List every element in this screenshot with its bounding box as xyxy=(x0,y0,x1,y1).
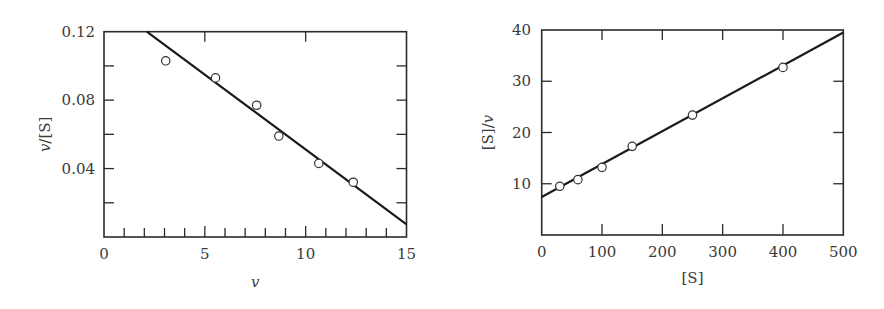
y-tick-label: 10 xyxy=(512,175,531,193)
y-axis-label: v/[S] xyxy=(36,117,54,153)
data-point xyxy=(628,142,636,150)
x-tick-label: 100 xyxy=(588,243,617,261)
data-point xyxy=(275,132,283,140)
figure: 0510150.040.080.12vv/[S] 010020030040050… xyxy=(0,0,884,309)
data-point xyxy=(779,63,787,71)
x-tick-label: 10 xyxy=(296,245,315,263)
x-tick-label: 200 xyxy=(648,243,677,261)
plot-frame xyxy=(104,32,407,237)
data-point xyxy=(574,175,582,183)
data-point xyxy=(598,163,606,171)
x-tick-label: 400 xyxy=(769,243,798,261)
y-tick-label: 0.08 xyxy=(62,91,95,109)
x-axis-label: v xyxy=(251,273,260,291)
x-axis-label: [S] xyxy=(682,269,704,287)
x-tick-label: 300 xyxy=(708,243,737,261)
fit-line xyxy=(147,32,407,225)
data-point xyxy=(162,57,170,65)
x-tick-label: 0 xyxy=(99,245,109,263)
x-tick-label: 500 xyxy=(829,243,858,261)
data-point xyxy=(252,101,260,109)
y-tick-label: 40 xyxy=(512,21,531,39)
hanes-woolf-plot: 010020030040050010203040[S][S]/v xyxy=(479,21,858,287)
y-tick-label: 0.12 xyxy=(62,23,95,41)
y-tick-label: 30 xyxy=(512,72,531,90)
y-tick-label: 0.04 xyxy=(62,160,95,178)
data-point xyxy=(688,111,696,119)
data-point xyxy=(315,159,323,167)
y-tick-label: 20 xyxy=(512,124,531,142)
x-tick-label: 5 xyxy=(200,245,210,263)
data-point xyxy=(349,178,357,186)
x-tick-label: 15 xyxy=(397,245,416,263)
x-tick-label: 0 xyxy=(537,243,547,261)
data-point xyxy=(556,182,564,190)
plot-frame xyxy=(542,30,844,235)
y-axis-label: [S]/v xyxy=(479,114,497,150)
eadie-hofstee-plot: 0510150.040.080.12vv/[S] xyxy=(36,23,416,291)
data-point xyxy=(211,74,219,82)
